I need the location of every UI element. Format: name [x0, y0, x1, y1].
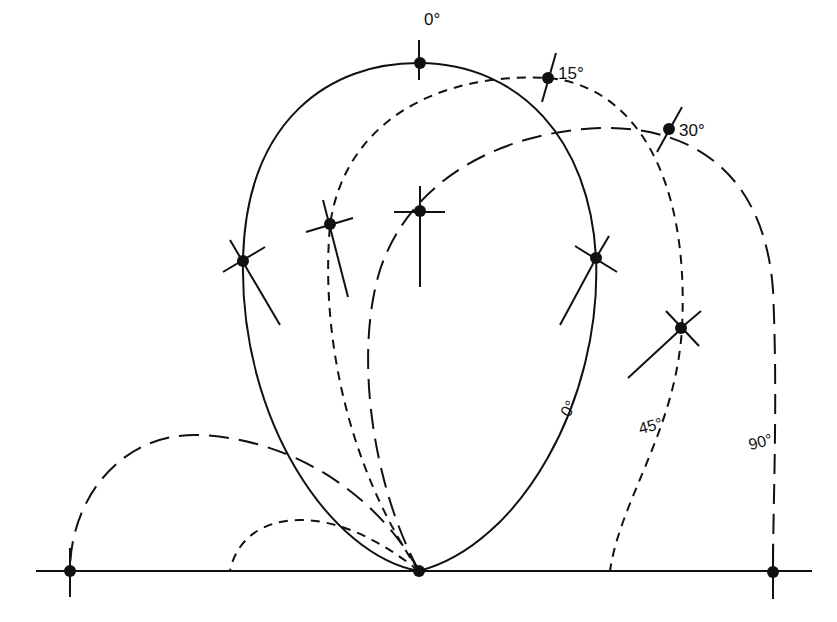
- curve-90deg-back-lobe: [70, 435, 419, 571]
- label-15deg-top: 15°: [558, 64, 584, 83]
- curve-90deg-long-dash: [368, 128, 775, 571]
- marker-right-0deg: [560, 236, 617, 325]
- marker-center-90deg: [394, 186, 445, 287]
- label-30deg-top: 30°: [679, 121, 705, 140]
- label-0deg-curve: 0°: [557, 398, 579, 420]
- marker-right-45deg: [628, 311, 701, 378]
- marker-baseline-left: [64, 548, 76, 597]
- marker-0deg-top: [414, 40, 426, 80]
- marker-baseline-right: [767, 545, 779, 599]
- marker-left-0deg: [223, 240, 280, 325]
- curve-0deg-solid: [243, 63, 596, 571]
- curve-45deg-back-lobe: [230, 520, 419, 571]
- marker-15deg-top: [542, 53, 556, 102]
- curve-45deg-short-dash: [328, 78, 683, 571]
- label-45deg-curve: 45°: [637, 415, 665, 438]
- label-90deg-curve: 90°: [747, 431, 775, 454]
- marker-baseline-origin: [413, 565, 425, 577]
- label-0deg-top: 0°: [424, 10, 440, 29]
- polar-diagram: 0° 15° 30° 0° 45° 90°: [0, 0, 837, 622]
